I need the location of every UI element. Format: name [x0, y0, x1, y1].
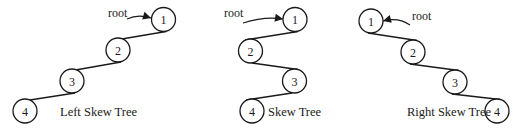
tree-caption: Left Skew Tree	[60, 105, 138, 119]
node-label: 1	[292, 13, 298, 27]
node-label: 2	[115, 44, 121, 58]
root-label: root	[224, 6, 244, 20]
tree-caption: Right Skew Tree	[407, 105, 491, 119]
tree-node: 2	[106, 38, 130, 62]
tree-node: 1	[152, 8, 176, 32]
tree-edge	[252, 63, 298, 70]
node-label: 3	[69, 75, 75, 89]
node-label: 1	[368, 15, 374, 29]
tree-node: 2	[401, 40, 425, 64]
tree-node: 4	[240, 99, 264, 123]
left-skew-tree: 1234rootLeft Skew Tree	[13, 6, 176, 123]
tree-edge	[452, 94, 500, 100]
arrowhead-icon	[142, 12, 151, 20]
arrowhead-icon	[383, 15, 392, 23]
tree-node: 1	[283, 8, 307, 32]
tree-node: 1	[359, 9, 383, 33]
skew-trees-diagram: 1234rootLeft Skew Tree 1234rootSkew Tree…	[0, 0, 519, 128]
tree-node: 2	[239, 39, 263, 63]
node-label: 2	[248, 45, 254, 59]
node-label: 4	[249, 105, 255, 119]
node-label: 1	[161, 13, 167, 27]
tree-caption: Skew Tree	[268, 105, 322, 119]
node-label: 4	[494, 105, 500, 119]
root-label: root	[108, 6, 128, 20]
tree-node: 3	[60, 69, 84, 93]
tree-edge	[410, 64, 459, 71]
tree-node: 3	[443, 70, 467, 94]
node-label: 4	[22, 105, 28, 119]
arrowhead-icon	[274, 14, 283, 22]
node-label: 3	[452, 76, 458, 90]
node-label: 3	[292, 75, 298, 89]
node-label: 2	[410, 46, 416, 60]
tree-node: 3	[283, 69, 307, 93]
root-label: root	[412, 9, 432, 23]
right-skew-tree: 1234rootRight Skew Tree	[359, 9, 509, 123]
tree-node: 4	[13, 99, 37, 123]
skew-tree: 1234rootSkew Tree	[224, 6, 322, 123]
tree-edge	[368, 33, 417, 41]
